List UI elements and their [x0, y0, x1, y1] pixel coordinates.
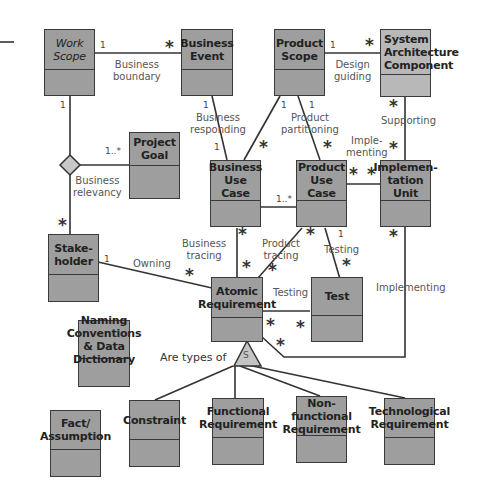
class-business-event[interactable]: Business Event — [181, 29, 233, 96]
class-test[interactable]: Test — [311, 277, 363, 342]
class-system-architecture-component[interactable]: System Architecture Component — [380, 29, 431, 97]
mult-one-many: 1..* — [105, 146, 121, 156]
label-supporting: Supporting — [381, 115, 436, 127]
class-name: Technological Requirement — [385, 399, 434, 438]
class-name: Stake- holder — [49, 235, 98, 275]
mult-one: 1 — [330, 40, 336, 50]
class-name: Implemen- tation Unit — [381, 161, 430, 201]
class-name: Fact/ Assumption — [51, 411, 100, 450]
mult-many: * — [266, 318, 275, 332]
class-name: Project Goal — [130, 133, 179, 166]
mult-one: 1 — [338, 229, 344, 239]
mult-one: 1 — [309, 100, 315, 110]
class-fact-assumption[interactable]: Fact/ Assumption — [50, 410, 101, 477]
mult-many: * — [367, 167, 376, 181]
class-product-scope[interactable]: Product Scope — [274, 29, 325, 96]
class-name: System Architecture Component — [381, 30, 430, 75]
class-naming-conventions[interactable]: Naming Conventions & Data Dictionary — [78, 320, 130, 387]
mult-many: * — [389, 141, 398, 155]
class-name: Naming Conventions & Data Dictionary — [79, 321, 129, 359]
mult-many: * — [389, 99, 398, 113]
mult-many: * — [323, 140, 332, 154]
class-diagram: Work Scope Business Event Product Scope … — [0, 0, 478, 498]
class-name: Product Scope — [275, 30, 324, 70]
mult-many: * — [242, 260, 251, 274]
mult-many: * — [365, 38, 374, 52]
class-name: Non-functional Requirement — [297, 397, 346, 436]
class-business-use-case[interactable]: Business Use Case — [210, 160, 261, 227]
class-name: Business Use Case — [211, 161, 260, 201]
class-non-functional-requirement[interactable]: Non-functional Requirement — [296, 396, 347, 463]
mult-many: * — [342, 258, 351, 272]
label-business-responding: Business responding — [190, 112, 246, 136]
mult-many: * — [389, 229, 398, 243]
class-name: Atomic Requirement — [212, 278, 262, 318]
mult-one: 1 — [203, 100, 209, 110]
mult-one: 1 — [60, 100, 66, 110]
label-testing-2: Testing — [273, 287, 308, 299]
class-work-scope[interactable]: Work Scope — [44, 29, 95, 96]
mult-many: * — [296, 320, 305, 334]
class-implementation-unit[interactable]: Implemen- tation Unit — [380, 160, 431, 227]
mult-many: * — [238, 227, 247, 241]
class-name: Functional Requirement — [213, 399, 263, 438]
class-name: Business Event — [182, 30, 232, 70]
label-product-tracing: Product tracing — [262, 238, 300, 262]
class-functional-requirement[interactable]: Functional Requirement — [212, 398, 264, 465]
mult-one: 1 — [104, 254, 110, 264]
label-design-guiding: Design guiding — [334, 59, 371, 83]
class-constraint[interactable]: Constraint — [129, 400, 180, 467]
mult-one: 1 — [281, 100, 287, 110]
label-owning: Owning — [133, 258, 171, 270]
label-product-partitioning: Product partitioning — [281, 112, 339, 136]
label-implementing-short: Imple- menting — [346, 135, 388, 159]
class-name: Test — [312, 278, 362, 316]
mult-many: * — [185, 268, 194, 282]
mult-many: * — [58, 218, 67, 232]
class-technological-requirement[interactable]: Technological Requirement — [384, 398, 435, 465]
label-business-relevancy: Business relevancy — [73, 175, 122, 199]
class-product-use-case[interactable]: Product Use Case — [296, 160, 347, 227]
label-are-types-of: Are types of — [160, 352, 226, 364]
mult-many: * — [165, 40, 174, 54]
mult-one: 1 — [214, 142, 220, 152]
class-project-goal[interactable]: Project Goal — [129, 132, 180, 199]
label-business-boundary: Business boundary — [113, 59, 161, 83]
label-implementing: Implementing — [376, 282, 446, 294]
mult-many: * — [259, 140, 268, 154]
class-stakeholder[interactable]: Stake- holder — [48, 234, 99, 302]
generalization-s-symbol: S — [243, 349, 249, 361]
mult-many: * — [306, 227, 315, 241]
class-name: Constraint — [130, 401, 179, 440]
mult-many: * — [276, 338, 285, 352]
class-atomic-requirement[interactable]: Atomic Requirement — [211, 277, 263, 342]
mult-one-many: 1..* — [276, 194, 292, 204]
class-name: Product Use Case — [297, 161, 346, 201]
label-business-tracing: Business tracing — [182, 238, 226, 262]
mult-many: * — [268, 263, 277, 277]
mult-many: * — [349, 167, 358, 181]
mult-one: 1 — [100, 40, 106, 50]
class-name: Work Scope — [45, 30, 94, 70]
